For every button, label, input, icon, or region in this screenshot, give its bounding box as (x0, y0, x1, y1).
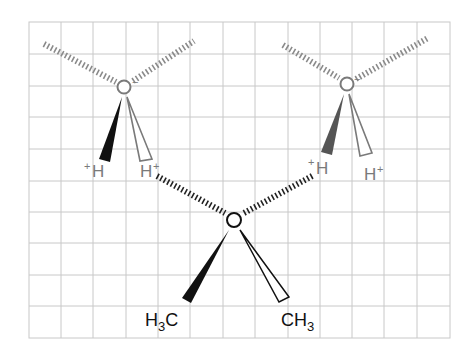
hashed-bond (283, 45, 339, 78)
hydrogen-label: H (92, 162, 104, 181)
h-charge: + (153, 160, 159, 172)
oxygen-charge: − (354, 73, 360, 85)
solid-wedge-bond (182, 230, 229, 303)
oxygen-atom (341, 78, 354, 91)
h-charge: + (84, 160, 90, 172)
hydrogen-label: H (364, 165, 376, 184)
water-molecule-left: − + H H + (44, 41, 194, 181)
methyl-label-right: CH3 (281, 310, 314, 334)
oxygen-atom (118, 81, 131, 94)
oxygen-charge: − (132, 76, 138, 88)
hashed-bond (44, 44, 116, 82)
dimethyl-ether-molecule: H3C CH3 (145, 213, 314, 334)
solid-wedge-bond (321, 94, 344, 155)
solid-wedge-bond (99, 97, 122, 162)
hydrogen-bond-left (157, 176, 225, 213)
water-molecule-right: − + H H + (283, 38, 428, 184)
oxygen-atom (227, 213, 241, 227)
hashed-bond (133, 41, 194, 81)
hollow-wedge-bond (240, 230, 289, 302)
hydrogen-label: H (316, 159, 328, 178)
methyl-label-left: H3C (145, 310, 178, 334)
hydrogen-bond-diagram: − + H H + − + H H + H3C CH3 (0, 0, 472, 357)
hydrogen-label: H (140, 162, 152, 181)
hollow-wedge-bond (127, 97, 152, 161)
h-charge: + (308, 156, 314, 168)
h-charge: + (377, 163, 383, 175)
